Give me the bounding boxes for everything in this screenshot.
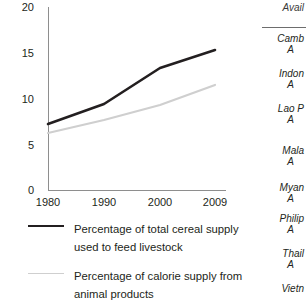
table-row-sub: A [277, 44, 304, 55]
table-row-sub: A [282, 156, 304, 167]
side-table-header: Avail [283, 2, 305, 13]
table-row-sub: A [278, 114, 304, 125]
x-tick-2000: 2000 [148, 196, 172, 208]
line-chart: 20 15 10 5 0 1980 1990 2000 2009 Percent… [0, 0, 252, 296]
table-row: Thail A [282, 248, 304, 270]
legend-label-calorie-supply: Percentage of calorie supply from animal… [74, 270, 242, 300]
table-row: Mala A [282, 145, 304, 167]
table-row: Vietn [281, 283, 304, 294]
series-calorie-supply-line [48, 85, 215, 133]
table-row-country: Vietn [281, 283, 304, 294]
table-row-country: Indon [279, 68, 304, 79]
table-row: Philip A [280, 213, 304, 235]
x-tick-1990: 1990 [92, 196, 116, 208]
table-row-country: Mala [282, 145, 304, 156]
table-row: Myan A [280, 182, 304, 204]
legend-item-cereal-feed: Percentage of total cereal supply used t… [28, 219, 252, 255]
x-tick-2009: 2009 [203, 196, 227, 208]
table-row-country: Philip [280, 213, 304, 224]
table-row: Indon A [279, 68, 304, 90]
table-row-sub: A [280, 224, 304, 235]
chart-legend: Percentage of total cereal supply used t… [28, 219, 252, 304]
table-row-country: Myan [280, 182, 304, 193]
side-table-rule [262, 27, 306, 28]
table-row-sub: A [282, 259, 304, 270]
table-row-sub: A [280, 193, 304, 204]
legend-swatch-light-icon [28, 273, 64, 274]
legend-label-cereal-feed: Percentage of total cereal supply used t… [74, 223, 239, 253]
legend-swatch-dark-icon [28, 225, 64, 227]
legend-item-calorie-supply: Percentage of calorie supply from animal… [28, 266, 252, 302]
x-axis-labels: 1980 1990 2000 2009 [0, 196, 252, 214]
table-row-sub: A [279, 79, 304, 90]
table-row-country: Lao P [278, 103, 304, 114]
side-table: Avail Camb A Indon A Lao P A Mala A Myan… [252, 0, 306, 296]
table-row-country: Thail [282, 248, 304, 259]
x-tick-1980: 1980 [36, 196, 60, 208]
table-row: Lao P A [278, 103, 304, 125]
table-row-country: Camb [277, 33, 304, 44]
table-row: Camb A [277, 33, 304, 55]
